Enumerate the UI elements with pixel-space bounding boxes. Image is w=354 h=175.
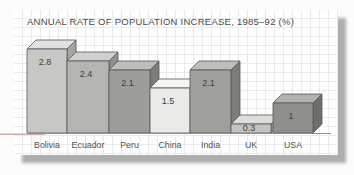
axis-category-label: Bolivia <box>34 140 60 150</box>
page-background: ANNUAL RATE OF POPULATION INCREASE, 1985… <box>0 0 354 175</box>
bar-face <box>190 61 240 70</box>
axis-category-label: China <box>159 140 182 150</box>
bar-face <box>67 52 118 61</box>
bar-value-label: 2.4 <box>80 69 93 79</box>
axis-category-label: UK <box>245 140 257 150</box>
bar-value-label: 2.1 <box>121 78 134 88</box>
bar-face <box>150 88 190 133</box>
axis-category-label: Ecuador <box>72 140 105 150</box>
axis-category-label: USA <box>284 140 302 150</box>
bar-value-label: 1.5 <box>162 96 175 106</box>
bar-chart-canvas: 2.8Bolivia2.4Ecuador2.1Peru1.5China2.1In… <box>0 0 354 175</box>
bar-value-label: 1 <box>288 111 293 121</box>
bar-value-label: 0.3 <box>243 123 256 133</box>
bar-value-label: 2.8 <box>39 57 52 67</box>
bar-face <box>27 40 76 49</box>
axis-category-label: India <box>201 140 220 150</box>
bar-usa: 1USA <box>273 94 322 150</box>
bar-face <box>273 94 322 103</box>
bar-india: 2.1India <box>190 61 240 150</box>
bar-face <box>109 61 159 70</box>
axis-category-label: Peru <box>120 140 139 150</box>
bar-value-label: 2.1 <box>202 78 215 88</box>
